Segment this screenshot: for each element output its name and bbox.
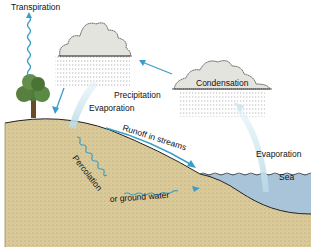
precipitation-arrow [52,88,64,114]
sea-evaporation-label: Evaporation [256,150,301,159]
transpiration-arrow [26,12,32,76]
sea-label: Sea [279,173,294,182]
precipitation-cloud [55,23,132,86]
precipitation-label: Precipitation [114,91,161,100]
land-evaporation-label: Evaporation [89,104,134,113]
transpiration-label: Transpiration [11,3,60,12]
tree [16,74,50,118]
water-cycle-diagram: Runoff in streams Percolation or ground … [0,0,311,251]
condensation-cloud [172,61,272,117]
condensation-label: Condensation [196,79,248,88]
condensation-to-cloud-arrow [139,60,172,74]
